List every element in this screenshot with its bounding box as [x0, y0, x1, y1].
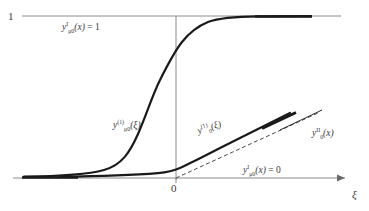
- plot-canvas: [0, 0, 369, 211]
- y-axis-tick-one: 1: [8, 11, 14, 22]
- label-lower-sup: (1): [200, 122, 208, 130]
- label-upper-sup: I: [66, 21, 68, 27]
- label-right-arg: (x): [323, 128, 334, 138]
- bold-segment-lower-right: [262, 113, 296, 129]
- label-upper-arg: (x): [74, 22, 85, 32]
- label-sigmoid-sup: (1): [117, 119, 124, 125]
- x-axis-tick-zero: 0: [171, 183, 177, 194]
- label-bottom-arg: (x): [255, 165, 266, 175]
- figure-container: 1 0 ξ yIμ0(x) = 1 y(1)μ0(ξ) y(1)0(ξ) yII…: [0, 0, 369, 211]
- label-outer-right: yII0(x): [312, 128, 334, 141]
- arrow-right-icon: [337, 175, 345, 182]
- x-axis-label-xi: ξ: [352, 189, 357, 200]
- label-lower-outer-solution: yIμ0(x) = 0: [243, 165, 281, 178]
- label-bottom-sup: I: [247, 164, 249, 170]
- label-sigmoid-arg: (ξ): [130, 120, 140, 130]
- label-upper-eq: = 1: [85, 22, 100, 32]
- label-right-sup: II: [316, 127, 320, 133]
- label-bottom-eq: = 0: [266, 165, 281, 175]
- label-upper-outer-solution: yIμ0(x) = 1: [62, 22, 100, 35]
- label-inner-sigmoid: y(1)μ0(ξ): [113, 120, 141, 133]
- inner-sigmoid-curve: [24, 16, 311, 176]
